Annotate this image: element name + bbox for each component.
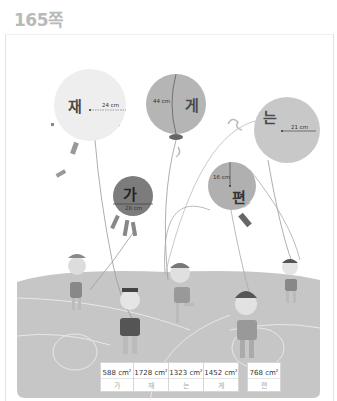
answer-cell: 588 cm2 가 [100,362,134,392]
balloon-letter-ga: 가 [123,183,137,204]
answer-letter: 재 [134,379,168,393]
answer-table-group-1: 588 cm2 가 1728 cm2 재 1323 cm2 는 [100,362,203,392]
answer-letter: 편 [248,379,280,393]
answer-cell: 768 cm2 편 [247,362,281,392]
dimension-ge: 44 cm [153,98,170,104]
area-value: 588 cm [103,369,129,377]
answer-cell: 1728 cm2 재 [133,362,169,392]
dimension-pyeon: 16 cm [213,174,230,180]
area-exponent: 2 [129,368,132,373]
answer-letter: 는 [169,379,203,393]
balloon-letter-ge: 게 [185,94,199,115]
answer-letter: 게 [204,379,238,393]
dimension-ga: 28 cm [125,205,142,211]
answer-cell: 1323 cm2 는 [168,362,204,392]
answer-letter: 가 [101,379,133,393]
area-value: 768 cm [250,369,276,377]
answer-table-group-2: 1452 cm2 게 768 cm2 편 [203,362,280,392]
area-value: 1323 cm [169,369,200,377]
area-value: 1452 cm [204,369,235,377]
balloon-letter-neun: 는 [263,106,277,127]
area-exponent: 2 [276,368,279,373]
dimension-neun: 21 cm [291,124,308,130]
balloon-letter-jae: 재 [68,95,82,116]
dimension-jae: 24 cm [102,102,119,108]
area-value: 1728 cm [134,369,165,377]
area-exponent: 2 [235,368,238,373]
answer-cell: 1452 cm2 게 [203,362,239,392]
balloon-letter-pyeon: 편 [232,186,246,207]
